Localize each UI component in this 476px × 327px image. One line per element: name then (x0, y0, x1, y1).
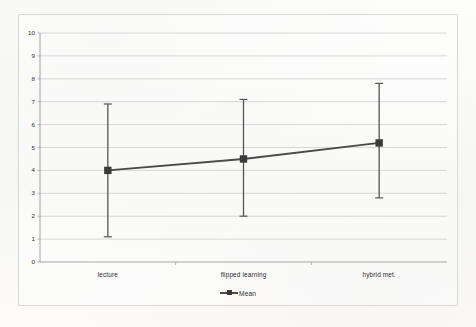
y-tick-label-5: 5 (13, 145, 35, 151)
data-marker-2 (375, 139, 382, 146)
y-tick-label-1: 1 (13, 236, 35, 242)
y-tick-label-8: 8 (13, 76, 35, 82)
legend-label-mean: Mean (239, 290, 256, 297)
x-tick-label-1: flipped learning (221, 271, 267, 278)
legend-square-icon (227, 290, 232, 295)
chart-legend: Mean (0, 289, 476, 297)
y-tick-label-2: 2 (13, 213, 35, 219)
y-tick-label-3: 3 (13, 190, 35, 196)
y-tick-label-7: 7 (13, 99, 35, 105)
y-tick-label-10: 10 (13, 30, 35, 36)
data-marker-1 (240, 155, 247, 162)
x-tick-label-2: hybrid met. (363, 271, 396, 278)
y-tick-label-0: 0 (13, 259, 35, 265)
data-marker-0 (104, 167, 111, 174)
y-tick-label-9: 9 (13, 53, 35, 59)
y-tick-label-6: 6 (13, 122, 35, 128)
axes-group (38, 33, 312, 265)
legend-marker-mean (220, 289, 238, 297)
y-tick-label-4: 4 (13, 167, 35, 173)
x-tick-label-0: lecture (98, 271, 118, 278)
